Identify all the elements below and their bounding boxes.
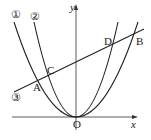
line-3-label: ③ — [11, 92, 21, 103]
y-axis-label: y — [70, 2, 75, 13]
point-c-label: C — [47, 65, 54, 76]
point-a-label: A — [33, 82, 41, 93]
x-axis-label: x — [131, 119, 136, 130]
point-d-label: D — [104, 36, 112, 47]
curve-1-label: ① — [11, 9, 21, 20]
origin-label: O — [73, 119, 81, 130]
graph-diagram: ① ② ③ y x O A C D B — [0, 0, 151, 140]
curve-2-label: ② — [30, 11, 40, 22]
point-b-label: B — [136, 36, 143, 47]
